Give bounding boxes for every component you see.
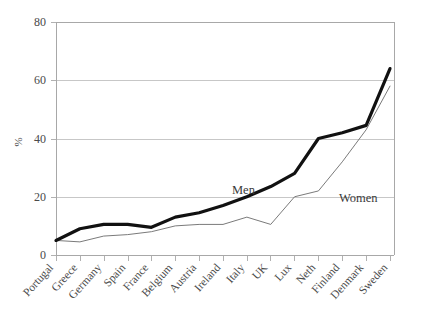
x-tick-labels: Portugal Greece Germany Spain France Bel… bbox=[20, 261, 389, 302]
series-line-men bbox=[56, 69, 390, 241]
xtick-label-ireland: Ireland bbox=[192, 261, 223, 293]
line-chart: 0 20 40 60 80 % Portugal Greece Germany … bbox=[0, 0, 436, 334]
xtick-label-portugal: Portugal bbox=[20, 261, 56, 299]
x-tickmarks bbox=[56, 255, 390, 261]
gridlines bbox=[56, 22, 394, 197]
y-tick-labels: 0 20 40 60 80 bbox=[34, 15, 46, 262]
xtick-label-uk: UK bbox=[249, 261, 269, 282]
series-label-men: Men bbox=[232, 183, 256, 197]
xtick-label-italy: Italy bbox=[223, 261, 247, 286]
xtick-label-austria: Austria bbox=[167, 261, 199, 294]
ytick-label-20: 20 bbox=[34, 190, 46, 204]
y-axis-title: % bbox=[12, 137, 24, 146]
chart-page: 0 20 40 60 80 % Portugal Greece Germany … bbox=[0, 0, 436, 334]
ytick-label-80: 80 bbox=[34, 15, 46, 29]
plot-frame bbox=[56, 22, 394, 255]
xtick-label-lux: Lux bbox=[272, 261, 293, 283]
ytick-label-60: 60 bbox=[34, 73, 46, 87]
ytick-label-40: 40 bbox=[34, 132, 46, 146]
y-tickmarks bbox=[51, 22, 56, 255]
series-line-women bbox=[56, 86, 390, 242]
series-label-women: Women bbox=[339, 191, 378, 205]
ytick-label-0: 0 bbox=[40, 248, 46, 262]
